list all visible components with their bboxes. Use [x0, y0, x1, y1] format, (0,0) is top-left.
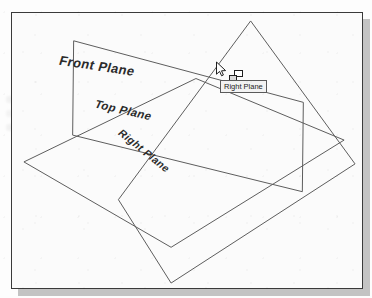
plane-tooltip: Right Plane — [220, 80, 267, 93]
cursor-group: Right Plane — [215, 61, 275, 99]
figure-frame: Front Plane Top Plane Right Plane Right … — [11, 12, 363, 289]
mouse-pointer-icon — [215, 61, 228, 78]
scanned-page: Front Plane Top Plane Right Plane Right … — [0, 0, 372, 298]
